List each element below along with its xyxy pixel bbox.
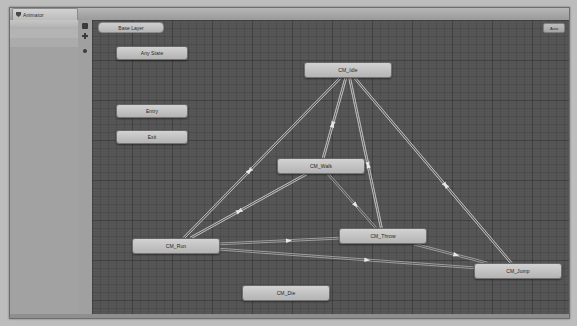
layers-panel[interactable] [10, 20, 79, 317]
tab-animator[interactable]: Animator [12, 8, 78, 20]
layers-icon[interactable] [82, 23, 88, 29]
state-node-label: CM_Walk [310, 163, 332, 169]
state-node-label: CM_Die [277, 290, 296, 296]
state-node-label: Entry [146, 108, 158, 114]
layers-icon-gutter [78, 20, 93, 317]
auto-live-link-button[interactable]: Auto [543, 23, 565, 33]
state-node-cm-jump[interactable]: CM_Jump [474, 263, 562, 279]
state-machine-canvas[interactable]: Any StateEntryExitCM_IdleCM_WalkCM_Throw… [92, 20, 569, 317]
auto-button-label: Auto [550, 26, 558, 31]
state-node-label: Exit [148, 134, 157, 140]
state-node-cm-die[interactable]: CM_Die [242, 285, 330, 301]
state-node-label: CM_Throw [370, 233, 395, 239]
canvas-toolbar: Base Layer Auto [92, 20, 569, 33]
layer-settings-icon[interactable] [82, 48, 88, 54]
state-node-cm-walk[interactable]: CM_Walk [277, 158, 365, 174]
state-node-cm-idle[interactable]: CM_Idle [304, 62, 392, 78]
state-node-label: CM_Run [166, 243, 186, 249]
state-node-entry[interactable]: Entry [116, 104, 188, 118]
window-body: Any StateEntryExitCM_IdleCM_WalkCM_Throw… [10, 20, 569, 317]
state-node-label: Any State [141, 50, 164, 56]
animator-icon [16, 12, 21, 17]
app-root: Animator Any StateEntry [0, 0, 577, 326]
tab-animator-label: Animator [23, 12, 44, 18]
state-node-label: CM_Jump [506, 268, 529, 274]
breadcrumb[interactable]: Base Layer [98, 22, 164, 33]
state-node-cm-throw[interactable]: CM_Throw [339, 228, 427, 244]
add-layer-icon[interactable] [82, 33, 88, 39]
layers-panel-list[interactable] [10, 47, 78, 317]
state-node-label: CM_Idle [338, 67, 357, 73]
window-status-bar [10, 314, 569, 318]
animator-window: Animator Any StateEntry [9, 7, 570, 319]
state-node-exit[interactable]: Exit [116, 130, 188, 144]
state-node-any-state[interactable]: Any State [116, 46, 188, 60]
state-node-cm-run[interactable]: CM_Run [132, 238, 220, 254]
breadcrumb-label: Base Layer [118, 25, 143, 31]
